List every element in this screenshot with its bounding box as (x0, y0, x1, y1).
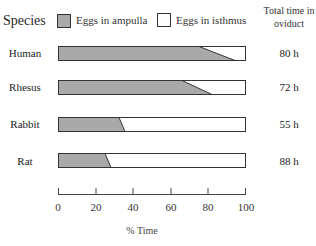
row-value-rhesus: 72 h (262, 81, 316, 93)
row-value-human: 80 h (262, 47, 316, 59)
total-time-header-line1: Total time in (262, 4, 316, 17)
x-axis-label: % Time (118, 225, 166, 236)
x-axis (58, 184, 246, 194)
row-value-rabbit: 55 h (262, 118, 316, 130)
legend-label-ampulla: Eggs in ampulla (76, 14, 148, 26)
bar-rhesus (58, 80, 246, 95)
x-tick-60: 60 (156, 201, 186, 213)
row-label-rabbit: Rabbit (0, 118, 50, 130)
x-tick-100: 100 (231, 201, 261, 213)
row-label-human: Human (0, 47, 50, 59)
total-time-column-header: Total time in oviduct (262, 4, 316, 30)
total-time-header-line2: oviduct (262, 17, 316, 30)
x-tick-80: 80 (193, 201, 223, 213)
x-tick-40: 40 (118, 201, 148, 213)
legend-label-isthmus: Eggs in isthmus (176, 14, 246, 26)
bar-human (58, 46, 246, 61)
row-value-rat: 88 h (262, 155, 316, 167)
species-column-header: Species (3, 13, 46, 29)
row-label-rat: Rat (0, 155, 50, 167)
bar-rat (58, 153, 246, 168)
x-tick-0: 0 (43, 201, 73, 213)
bar-rabbit (58, 117, 246, 132)
legend-swatch-isthmus (157, 13, 171, 27)
row-label-rhesus: Rhesus (0, 81, 50, 93)
x-tick-20: 20 (81, 201, 111, 213)
legend-swatch-ampulla (57, 14, 71, 28)
